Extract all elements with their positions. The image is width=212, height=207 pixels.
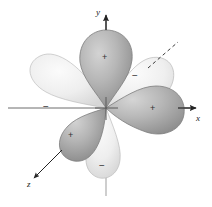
z-axis-label: z [27, 180, 31, 189]
lobe-left-sign: − [43, 102, 49, 112]
y-axis-label: y [96, 8, 100, 17]
orbital-diagram-figure: y x z + + + − − − [0, 0, 212, 207]
lobe-lower-right-sign: − [99, 161, 105, 171]
x-axis-label: x [196, 114, 200, 123]
lobe-top-sign: + [102, 53, 107, 62]
orbital-diagram-canvas [0, 0, 212, 207]
lobe-lower-left-sign: + [68, 131, 73, 140]
z-axis-arrow [34, 150, 62, 178]
lobe-upper-right-sign: − [132, 71, 138, 81]
lobe-right-sign: + [150, 104, 155, 113]
